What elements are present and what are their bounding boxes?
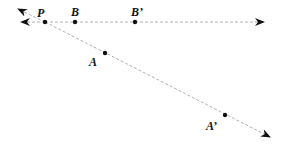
ray-diagram: P B B’ A A’ <box>0 0 289 146</box>
label-P: P <box>37 6 45 20</box>
point-B-prime <box>133 20 137 24</box>
label-A: A <box>88 55 97 69</box>
line-PA <box>45 22 270 137</box>
point-A-prime <box>223 113 227 117</box>
label-B-prime: B’ <box>130 5 143 19</box>
point-P <box>43 20 47 24</box>
label-B: B <box>70 5 79 19</box>
label-A-prime: A’ <box>205 119 217 133</box>
point-A <box>103 51 107 55</box>
point-B <box>73 20 77 24</box>
